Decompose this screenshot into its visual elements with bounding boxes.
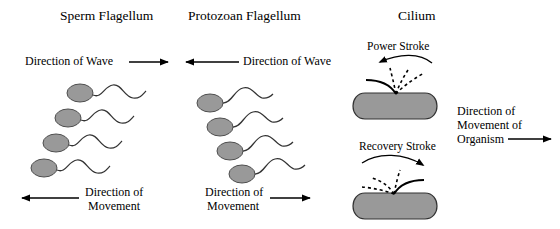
power-stroke-arrow	[380, 55, 432, 63]
cilium-filament-dashed	[372, 178, 394, 194]
flagellum-cilium-diagram: Sperm Flagellum Protozoan Flagellum Cili…	[0, 0, 560, 229]
cilium-filament-solid	[366, 80, 396, 94]
cilium-cell-body	[353, 93, 437, 119]
cilium-recovery-stroke-group	[353, 170, 437, 219]
protozoan-cell	[197, 88, 273, 112]
cilium-filament-dashed	[396, 70, 408, 94]
sperm-cell	[31, 159, 110, 177]
protozoan-cell	[217, 136, 293, 160]
cilium-cell-body	[353, 193, 437, 219]
protozoan-cell	[207, 112, 283, 136]
protozoan-cell	[229, 159, 305, 183]
sperm-cell-group	[31, 84, 146, 177]
diagram-drawing-layer	[0, 0, 560, 229]
cilium-power-stroke-group	[353, 68, 437, 119]
cilium-filament-solid	[394, 180, 424, 194]
sperm-cell	[67, 84, 146, 102]
sperm-cell	[43, 134, 122, 152]
cilium-filament-dashed	[396, 73, 424, 94]
protozoan-cell-group	[197, 88, 305, 183]
recovery-stroke-arrow	[362, 155, 423, 165]
sperm-cell	[55, 109, 134, 127]
